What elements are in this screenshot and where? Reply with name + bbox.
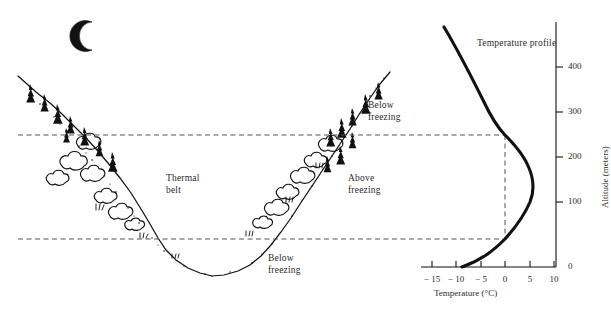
x-axis-title: Temperature (°C) bbox=[434, 288, 497, 298]
x-tick-label-10: 10 bbox=[543, 274, 565, 284]
y-tick-label-0: 0 bbox=[568, 261, 573, 271]
y-axis-ticks bbox=[556, 67, 563, 202]
label-thermal-belt: Thermal belt bbox=[166, 173, 200, 196]
label-temperature-profile: Temperature profile bbox=[477, 38, 556, 50]
x-tick-label-0: 0 bbox=[495, 274, 515, 284]
temperature-profile-curve bbox=[444, 27, 533, 267]
y-tick-label-400: 400 bbox=[568, 61, 582, 71]
label-below-freezing-upper: Below freezing bbox=[368, 100, 401, 123]
label-above-freezing: Above freezing bbox=[348, 173, 381, 196]
thermal-belt-figure: Below freezing Thermal belt Above freezi… bbox=[0, 0, 611, 317]
y-axis-title: Altitude (meters) bbox=[600, 146, 610, 208]
x-tick-label-minus-5: − 5 bbox=[468, 274, 494, 284]
y-tick-label-100: 100 bbox=[568, 196, 582, 206]
chart-axes bbox=[421, 22, 556, 267]
y-tick-label-200: 200 bbox=[568, 151, 582, 161]
x-tick-label-minus-10: − 10 bbox=[441, 274, 471, 284]
label-below-freezing-lower: Below freezing bbox=[268, 253, 301, 276]
x-axis-ticks bbox=[432, 261, 554, 267]
y-tick-label-300: 300 bbox=[568, 106, 582, 116]
x-tick-label-5: 5 bbox=[520, 274, 540, 284]
